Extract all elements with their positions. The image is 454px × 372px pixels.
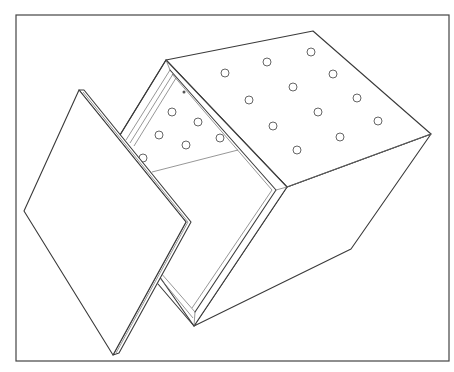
box-drawing — [0, 0, 454, 372]
illustration: Line drawing of an open box with perfora… — [0, 0, 454, 372]
